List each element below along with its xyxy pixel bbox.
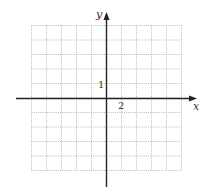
coordinate-plane [0, 0, 207, 194]
x-axis-label: x [193, 101, 199, 112]
x-tick-label: 2 [118, 101, 124, 111]
y-axis-label: y [96, 9, 102, 20]
y-axis-arrow-icon [104, 12, 110, 20]
y-tick-label: 1 [98, 80, 104, 90]
